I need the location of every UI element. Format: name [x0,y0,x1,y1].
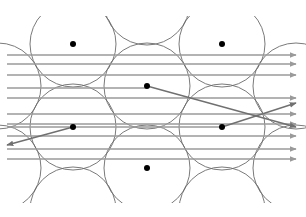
scatterer-circle [179,167,265,217]
center-dot [219,124,225,130]
center-dot [144,83,150,89]
scatterer-circle [104,0,190,45]
scatterer-centers [70,41,225,171]
scatterer-circles [0,0,306,217]
deflected-ray-arrow [147,86,296,127]
center-dot [219,41,225,47]
center-dot [144,165,150,171]
scatterer-circle [253,43,306,129]
scatterer-circle [253,125,306,211]
scattering-diagram [0,0,306,217]
center-dot [70,41,76,47]
scatterer-circle [0,43,41,129]
center-dot [70,124,76,130]
scatterer-circle [30,167,116,217]
ray-lines [7,55,296,159]
